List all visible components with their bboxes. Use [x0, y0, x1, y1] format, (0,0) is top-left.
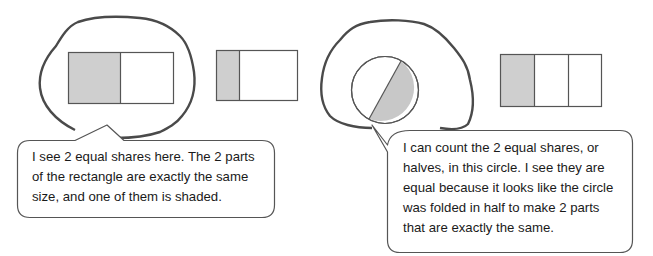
callout-right-line: that are exactly the same.: [403, 218, 613, 238]
callout-left-line: size, and one of them is shaded.: [32, 187, 255, 207]
callout-right-line: halves, in this circle. I see they are: [403, 158, 613, 178]
callout-left-line: of the rectangle are exactly the same: [32, 167, 255, 187]
circle-halves: [352, 57, 419, 124]
callout-right-line: equal because it looks like the circle: [403, 178, 613, 198]
callout-left-text: I see 2 equal shares here. The 2 parts o…: [32, 147, 255, 207]
rectangle-unequal: [217, 51, 298, 101]
callout-right-text: I can count the 2 equal shares, or halve…: [403, 138, 613, 238]
callout-left-line: I see 2 equal shares here. The 2 parts: [32, 147, 255, 167]
callout-right-line: was folded in half to make 2 parts: [403, 198, 613, 218]
callout-right-line: I can count the 2 equal shares, or: [403, 138, 613, 158]
rectangle-thirds: [501, 55, 602, 107]
rectangle-halves: [69, 53, 174, 104]
